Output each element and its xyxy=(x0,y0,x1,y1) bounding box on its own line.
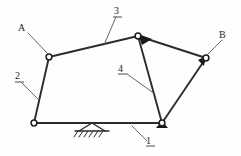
leader-line-b xyxy=(207,40,222,55)
label-link-3: 3 xyxy=(114,6,119,16)
link-2-crank-bar xyxy=(34,57,49,123)
ground-hatch-1 xyxy=(74,131,78,137)
link-4-rocker-bar xyxy=(138,36,162,123)
mechanism-diagram: A B 1 2 3 4 xyxy=(0,0,241,156)
joint-circles-group xyxy=(31,33,209,126)
ground-hatch-2 xyxy=(79,131,83,137)
leader-line-a xyxy=(28,33,48,54)
ground-hatch-3 xyxy=(84,131,88,137)
link-b-to-ground-right-bar xyxy=(162,58,206,123)
ground-triangle-right-leg xyxy=(92,123,105,131)
label-link-4: 4 xyxy=(118,64,123,74)
joint-ground-left-circle xyxy=(31,120,37,126)
ground-hatch-4 xyxy=(89,131,93,137)
label-point-a: A xyxy=(18,23,25,33)
joint-b-circle xyxy=(203,55,209,61)
ground-hatch-5 xyxy=(94,131,98,137)
linkage-drawing-canvas xyxy=(0,0,241,156)
link-3-coupler-bar xyxy=(49,36,138,57)
leader-line-2 xyxy=(22,83,38,99)
fixed-pivot-ground-symbol xyxy=(74,123,109,137)
label-link-1: 1 xyxy=(146,136,151,146)
link-bars-group xyxy=(34,36,206,123)
joint-a-circle xyxy=(46,54,52,60)
leader-line-1 xyxy=(132,126,147,141)
label-link-2: 2 xyxy=(15,71,20,81)
joint-ground-right-circle xyxy=(159,120,165,126)
ground-triangle-left-leg xyxy=(79,123,92,131)
joint-wedge-group xyxy=(138,34,206,128)
label-point-b: B xyxy=(219,30,226,40)
joint-top-circle xyxy=(135,33,141,39)
ground-hatch-6 xyxy=(99,131,103,137)
